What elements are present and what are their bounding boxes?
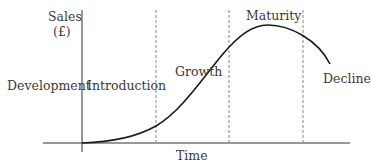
stage-introduction: Introduction xyxy=(87,80,166,93)
y-axis-label-currency: (£) xyxy=(53,26,71,39)
stage-maturity: Maturity xyxy=(246,10,301,23)
y-axis-label-sales: Sales xyxy=(48,11,82,24)
stage-development: Development xyxy=(7,80,91,93)
stage-growth: Growth xyxy=(175,66,222,79)
x-axis-label-time: Time xyxy=(176,150,208,163)
stage-decline: Decline xyxy=(323,73,371,86)
